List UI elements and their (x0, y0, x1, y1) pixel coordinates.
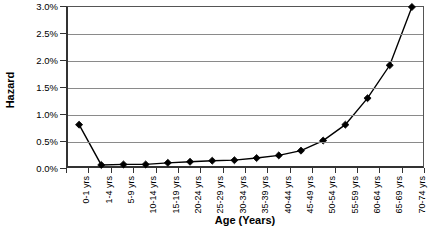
x-axis-tick-label: 35-39 yrs (260, 176, 270, 214)
x-axis-tick-mark (424, 168, 425, 173)
y-axis-tick-label: 3.0% (36, 1, 58, 12)
x-axis-tick-mark (156, 168, 157, 173)
x-axis-tick-mark (66, 168, 67, 173)
y-axis-tick-mark (60, 141, 66, 142)
x-axis-tick-label: 55-59 yrs (350, 176, 360, 214)
x-axis-tick-label: 5-9 yrs (126, 176, 136, 204)
x-axis-tick-mark (290, 168, 291, 173)
data-point-marker (76, 121, 83, 128)
x-axis-tick-label: 60-64 yrs (372, 176, 382, 214)
x-axis-tick-label: 45-49 yrs (305, 176, 315, 214)
data-point-marker (164, 159, 171, 166)
y-axis-title: Hazard (0, 0, 20, 180)
x-axis-tick-label: 20-24 yrs (193, 176, 203, 214)
data-point-marker (186, 158, 193, 165)
x-axis-tick-label: 65-69 yrs (394, 176, 404, 214)
x-axis-tick-label: 15-19 yrs (171, 176, 181, 214)
x-axis-tick-mark (312, 168, 313, 173)
y-axis-tick-mark (60, 87, 66, 88)
y-axis-tick-labels: 3.0%2.5%2.0%1.5%1.0%0.5%0.0% (20, 0, 62, 180)
hazard-by-age-chart: Hazard 3.0%2.5%2.0%1.5%1.0%0.5%0.0% Age … (0, 0, 436, 235)
y-axis-title-label: Hazard (4, 72, 16, 109)
data-point-marker (297, 147, 304, 154)
y-axis-tick-mark (60, 60, 66, 61)
x-axis-tick-mark (379, 168, 380, 173)
x-axis-tick-mark (133, 168, 134, 173)
data-point-marker (275, 152, 282, 159)
y-axis-tick-mark (60, 6, 66, 7)
data-point-marker (209, 157, 216, 164)
x-axis-title: Age (Years) (66, 214, 424, 226)
x-axis-tick-mark (402, 168, 403, 173)
gridline (68, 88, 423, 89)
x-axis-tick-label: 50-54 yrs (327, 176, 337, 214)
x-axis-tick-label: 40-44 yrs (283, 176, 293, 214)
x-axis-tick-mark (223, 168, 224, 173)
y-axis-tick-label: 0.0% (36, 163, 58, 174)
data-point-marker (231, 157, 238, 164)
x-axis-tick-mark (357, 168, 358, 173)
y-axis-tick-label: 0.5% (36, 136, 58, 147)
gridline (68, 34, 423, 35)
x-axis-tick-label: 70-74 yrs (417, 176, 427, 214)
x-axis-tick-label: 0-1 yrs (81, 176, 91, 204)
x-axis-tick-mark (335, 168, 336, 173)
y-axis-tick-label: 1.0% (36, 109, 58, 120)
data-point-marker (98, 161, 105, 168)
data-point-marker (120, 161, 127, 168)
x-axis-tick-label: 10-14 yrs (148, 176, 158, 214)
gridline (68, 142, 423, 143)
data-point-marker (253, 155, 260, 162)
gridline (68, 61, 423, 62)
x-axis-tick-mark (245, 168, 246, 173)
y-axis-tick-mark (60, 33, 66, 34)
x-axis-tick-label: 25-29 yrs (215, 176, 225, 214)
y-axis-tick-label: 2.0% (36, 55, 58, 66)
x-axis-tick-mark (178, 168, 179, 173)
y-axis-tick-mark (60, 114, 66, 115)
y-axis-tick-label: 1.5% (36, 82, 58, 93)
x-axis-tick-label: 1-4 yrs (104, 176, 114, 204)
data-point-marker (408, 3, 415, 10)
x-axis-tick-mark (88, 168, 89, 173)
data-point-marker (142, 161, 149, 168)
plot-area (66, 6, 424, 168)
x-axis-tick-mark (200, 168, 201, 173)
y-axis-tick-label: 2.5% (36, 28, 58, 39)
x-axis-tick-mark (267, 168, 268, 173)
x-axis-tick-mark (111, 168, 112, 173)
x-axis-tick-label: 30-34 yrs (238, 176, 248, 214)
gridline (68, 115, 423, 116)
